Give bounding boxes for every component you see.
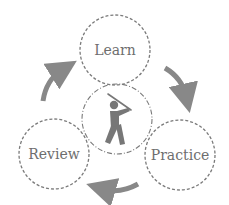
arrow-review-to-learn — [43, 70, 62, 101]
arrow-practice-to-review — [103, 184, 138, 191]
stage-practice: Practice — [145, 120, 215, 190]
stage-review: Review — [19, 119, 89, 189]
stage-learn: Learn — [80, 15, 150, 85]
learning-cycle-diagram: Learn Practice Review — [0, 0, 229, 205]
stage-label-learn: Learn — [94, 42, 136, 58]
stage-label-review: Review — [28, 146, 79, 162]
center-hub — [82, 84, 152, 154]
arrow-learn-to-practice — [165, 68, 186, 96]
stage-label-practice: Practice — [151, 147, 210, 163]
golfer-swing-icon — [105, 94, 131, 145]
